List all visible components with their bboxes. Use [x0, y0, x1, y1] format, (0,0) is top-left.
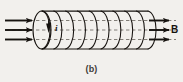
solenoid-figure: i B (b)	[0, 0, 183, 82]
current-label: i	[55, 24, 58, 33]
figure-caption: (b)	[0, 64, 183, 74]
magnetic-field-label: B	[171, 25, 178, 35]
